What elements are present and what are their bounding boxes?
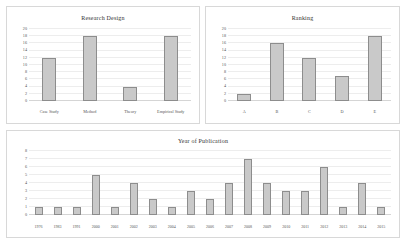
bar-slot (296, 151, 315, 215)
y-tick-label: 2 (25, 92, 27, 96)
bar-slot (239, 151, 258, 215)
bar-slot (353, 151, 372, 215)
bar (83, 36, 97, 101)
y-tick-label: 10 (23, 63, 27, 67)
x-tick-label: D (326, 110, 359, 114)
chart-panel-ranking: Ranking 02468101214161820 ABCDE (205, 6, 400, 124)
bar-series-ranking (228, 29, 391, 101)
y-tick-label: 14 (23, 49, 27, 53)
y-tick-label: 8 (224, 70, 226, 74)
bar (282, 191, 290, 215)
bar-slot (228, 29, 261, 101)
y-tick-label: 20 (222, 27, 226, 31)
bar-slot (181, 151, 200, 215)
x-tick-label: B (261, 110, 294, 114)
x-tick-label: Method (70, 110, 111, 114)
bar (35, 207, 43, 215)
bar (149, 199, 157, 215)
y-axis-ticks-ranking: 02468101214161820 (208, 29, 228, 101)
y-tick-label: 16 (23, 41, 27, 45)
bar-slot (358, 29, 391, 101)
bar-slot (29, 29, 70, 101)
x-tick-label: 2005 (181, 225, 200, 229)
y-tick-label: 8 (25, 149, 27, 153)
bar-slot (200, 151, 219, 215)
y-tick-label: 20 (23, 27, 27, 31)
x-tick-label: A (228, 110, 261, 114)
chart-title-ranking: Ranking (206, 15, 399, 21)
y-tick-label: 18 (23, 34, 27, 38)
bar-slot (151, 29, 192, 101)
bar-slot (70, 29, 111, 101)
bar-slot (86, 151, 105, 215)
bar (42, 58, 56, 101)
bar (92, 175, 100, 215)
bar-slot (48, 151, 67, 215)
x-tick-label: 2012 (315, 225, 334, 229)
y-tick-label: 4 (25, 181, 27, 185)
x-tick-label: C (293, 110, 326, 114)
y-axis-ticks-research-design: 02468101214161820 (9, 29, 29, 101)
y-tick-label: 3 (25, 189, 27, 193)
bar-slot (258, 151, 277, 215)
y-tick-label: 4 (25, 85, 27, 89)
y-tick-label: 1 (25, 205, 27, 209)
bar-series-research-design (29, 29, 191, 101)
bar-slot (110, 29, 151, 101)
bar (270, 43, 284, 101)
y-tick-label: 2 (25, 197, 27, 201)
y-tick-label: 4 (224, 85, 226, 89)
x-tick-label: 1976 (29, 225, 48, 229)
y-tick-label: 8 (25, 70, 27, 74)
y-tick-label: 14 (222, 49, 226, 53)
x-tick-label: Case Study (29, 110, 70, 114)
x-tick-label: 2004 (162, 225, 181, 229)
bar (73, 207, 81, 215)
chart-title-year-of-publication: Year of Publication (7, 138, 399, 144)
x-tick-label: 2003 (143, 225, 162, 229)
x-tick-label: 2002 (124, 225, 143, 229)
plot-area-ranking (228, 29, 391, 101)
x-axis-labels-year-of-publication: 1976198319912000200120022003200420052006… (29, 225, 391, 229)
bar-slot (261, 29, 294, 101)
bar (225, 183, 233, 215)
x-tick-label: 2006 (200, 225, 219, 229)
bar-slot (293, 29, 326, 101)
y-tick-label: 5 (25, 173, 27, 177)
bar (187, 191, 195, 215)
bar-slot (326, 29, 359, 101)
y-tick-label: 6 (25, 165, 27, 169)
bar-slot (219, 151, 238, 215)
bar (123, 87, 137, 101)
bar-slot (143, 151, 162, 215)
bar (111, 207, 119, 215)
bar-slot (372, 151, 391, 215)
bar (335, 76, 349, 101)
bar (263, 183, 271, 215)
bar (206, 199, 214, 215)
chart-title-research-design: Research Design (7, 15, 199, 21)
bar (377, 207, 385, 215)
bar (54, 207, 62, 215)
y-tick-label: 7 (25, 157, 27, 161)
y-tick-label: 12 (23, 56, 27, 60)
chart-panel-research-design: Research Design 02468101214161820 Case S… (6, 6, 200, 124)
x-tick-label: Theory (110, 110, 151, 114)
x-tick-label: 2000 (86, 225, 105, 229)
x-tick-label: 2014 (353, 225, 372, 229)
bar-series-year-of-publication (29, 151, 391, 215)
x-axis-labels-ranking: ABCDE (228, 110, 391, 114)
bar (164, 36, 178, 101)
y-tick-label: 6 (25, 77, 27, 81)
bar-slot (67, 151, 86, 215)
x-tick-label: 2015 (372, 225, 391, 229)
x-axis-labels-research-design: Case StudyMethodTheoryEmpirical Study (29, 110, 191, 114)
charts-page: Research Design 02468101214161820 Case S… (0, 0, 406, 244)
bar (244, 159, 252, 215)
bar-slot (334, 151, 353, 215)
y-tick-label: 18 (222, 34, 226, 38)
x-tick-label: 1991 (67, 225, 86, 229)
bar (237, 94, 251, 101)
bar (320, 167, 328, 215)
x-tick-label: 1983 (48, 225, 67, 229)
